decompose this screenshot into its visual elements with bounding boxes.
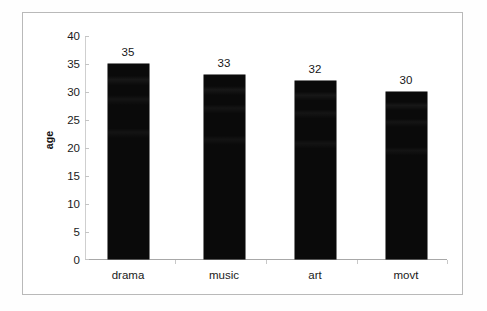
y-tick-mark-15 — [85, 176, 89, 177]
bar-value-drama: 35 — [106, 47, 150, 59]
y-tick-label-0: 0 — [52, 255, 80, 267]
y-tick-mark-30 — [85, 92, 89, 93]
y-tick-label-5: 5 — [52, 227, 80, 239]
y-tick-label-20: 20 — [52, 143, 80, 155]
x-tick-mark-4 — [447, 260, 448, 264]
y-tick-label-10: 10 — [52, 199, 80, 211]
bar-value-music: 33 — [202, 58, 246, 70]
x-category-label-drama: drama — [92, 270, 164, 282]
y-tick-mark-20 — [85, 148, 89, 149]
y-tick-mark-40 — [85, 36, 89, 37]
x-tick-mark-3 — [357, 260, 358, 264]
bar-value-movt: 30 — [384, 75, 428, 87]
y-tick-mark-25 — [85, 120, 89, 121]
bar-music[interactable] — [204, 75, 245, 259]
y-tick-mark-10 — [85, 204, 89, 205]
y-tick-label-35: 35 — [52, 59, 80, 71]
y-tick-label-30: 30 — [52, 87, 80, 99]
x-tick-mark-2 — [266, 260, 267, 264]
y-tick-mark-0 — [85, 259, 89, 260]
bar-art[interactable] — [295, 81, 336, 259]
x-tick-mark-1 — [175, 260, 176, 264]
y-tick-label-25: 25 — [52, 115, 80, 127]
y-tick-label-15: 15 — [52, 171, 80, 183]
x-category-label-art: art — [279, 270, 351, 282]
y-axis-tick-labels: 40 35 30 25 20 15 10 5 0 — [50, 0, 80, 311]
x-category-label-music: music — [188, 270, 260, 282]
x-category-label-movt: movt — [370, 270, 442, 282]
chart-figure: age 40 35 30 25 20 15 10 5 0 35 33 32 30… — [0, 0, 487, 311]
y-tick-label-40: 40 — [52, 31, 80, 43]
y-tick-mark-35 — [85, 64, 89, 65]
bar-drama[interactable] — [108, 64, 149, 259]
y-tick-mark-5 — [85, 232, 89, 233]
bar-movt[interactable] — [386, 92, 427, 259]
bar-value-art: 32 — [293, 64, 337, 76]
